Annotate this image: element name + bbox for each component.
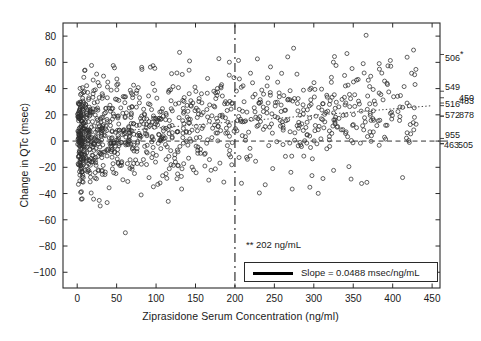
right-margin-label: 516 <box>445 99 460 109</box>
x-tick-label: 50 <box>97 293 137 304</box>
x-tick-label: 350 <box>333 293 373 304</box>
right-margin-label: 483 <box>459 96 474 106</box>
y-tick-label: 40 <box>22 84 56 95</box>
right-margin-label: 463 <box>444 140 459 150</box>
right-margin-label: 505 <box>458 140 473 150</box>
x-axis-label: Ziprasidone Serum Concentration (ng/ml) <box>0 311 481 322</box>
x-tick-label: 400 <box>373 293 413 304</box>
asterisk-marker: * <box>460 49 464 59</box>
x-tick-label: 100 <box>136 293 176 304</box>
right-margin-label: 549 <box>445 82 460 92</box>
x-tick-label: 300 <box>294 293 334 304</box>
x-tick-label: 0 <box>57 293 97 304</box>
right-margin-label: 878 <box>459 110 474 120</box>
plot-background <box>0 0 481 341</box>
y-tick-label: 0 <box>22 136 56 147</box>
y-tick-label: −80 <box>22 241 56 252</box>
y-tick-label: −60 <box>22 215 56 226</box>
y-tick-label: −20 <box>22 162 56 173</box>
y-tick-label: −100 <box>22 267 56 278</box>
right-margin-label: 506* <box>445 49 464 63</box>
legend-line-swatch <box>253 272 293 275</box>
y-axis-label: Change in QTc (msec) <box>19 75 30 235</box>
y-tick-label: −40 <box>22 189 56 200</box>
y-tick-label: 20 <box>22 110 56 121</box>
x-tick-label: 250 <box>254 293 294 304</box>
threshold-annotation: ** 202 ng/mL <box>246 240 301 250</box>
qtc-scatter-plot <box>0 0 481 341</box>
legend-label: Slope = 0.0488 msec/ng/mL <box>301 268 420 278</box>
x-tick-label: 200 <box>215 293 255 304</box>
x-tick-label: 150 <box>176 293 216 304</box>
x-tick-label: 450 <box>412 293 452 304</box>
legend-box: Slope = 0.0488 msec/ng/mL <box>244 262 438 282</box>
y-tick-label: 80 <box>22 31 56 42</box>
y-tick-label: 60 <box>22 57 56 68</box>
right-margin-label: 572 <box>445 110 460 120</box>
